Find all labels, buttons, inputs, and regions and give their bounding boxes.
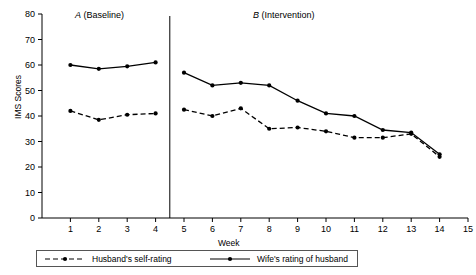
svg-text:15: 15: [463, 224, 473, 234]
data-point: [409, 130, 413, 134]
legend-item-husband-self-rating: Husband's self-rating: [44, 251, 172, 266]
data-point: [154, 111, 158, 115]
svg-text:2: 2: [96, 224, 101, 234]
legend-label-husband-self-rating: Husband's self-rating: [92, 254, 172, 264]
data-point: [296, 99, 300, 103]
data-point: [68, 63, 72, 67]
svg-text:4: 4: [153, 224, 158, 234]
data-point: [296, 125, 300, 129]
data-point: [381, 128, 385, 132]
data-point: [438, 152, 442, 156]
svg-text:8: 8: [267, 224, 272, 234]
data-point: [381, 136, 385, 140]
data-point: [324, 129, 328, 133]
data-point: [239, 106, 243, 110]
phase-label-b: B (Intervention): [253, 10, 315, 20]
legend-item-wife-rating-of-husband: Wife's rating of husband: [209, 251, 348, 266]
data-point: [352, 114, 356, 118]
legend-swatch-dashed: [44, 254, 86, 264]
svg-text:5: 5: [181, 224, 186, 234]
data-point: [239, 81, 243, 85]
svg-text:0: 0: [30, 213, 35, 223]
phase-label-a: A (Baseline): [75, 10, 124, 20]
svg-text:9: 9: [295, 224, 300, 234]
data-point: [267, 83, 271, 87]
series-line-1: [184, 73, 440, 155]
svg-text:10: 10: [321, 224, 331, 234]
data-point: [125, 64, 129, 68]
svg-text:1: 1: [68, 224, 73, 234]
y-axis-title: IMS Scores: [13, 75, 23, 119]
x-axis-title: Week: [218, 238, 240, 248]
svg-text:12: 12: [378, 224, 388, 234]
y-axis-title-wrapper: IMS Scores: [7, 67, 25, 127]
x-axis-title-wrapper: Week: [218, 232, 240, 250]
chart-figure: 01020304050607080123456789101112131415 I…: [0, 0, 476, 275]
data-point: [182, 71, 186, 75]
svg-text:11: 11: [350, 224, 359, 234]
data-point: [97, 118, 101, 122]
series-line-0: [70, 111, 155, 120]
legend-label-wife-rating-of-husband: Wife's rating of husband: [257, 254, 348, 264]
series-line-1: [70, 62, 155, 68]
data-point: [154, 60, 158, 64]
data-point: [182, 108, 186, 112]
svg-text:6: 6: [210, 224, 215, 234]
svg-text:3: 3: [125, 224, 130, 234]
data-point: [97, 67, 101, 71]
svg-text:70: 70: [25, 35, 35, 45]
data-point: [267, 127, 271, 131]
svg-text:60: 60: [25, 60, 35, 70]
data-point: [324, 111, 328, 115]
phase-a-text: (Baseline): [81, 10, 124, 20]
data-point: [210, 83, 214, 87]
svg-text:20: 20: [25, 162, 35, 172]
svg-text:50: 50: [25, 86, 35, 96]
data-point: [210, 114, 214, 118]
svg-text:80: 80: [25, 9, 35, 19]
svg-text:10: 10: [25, 188, 35, 198]
data-point: [68, 109, 72, 113]
chart-legend: Husband's self-rating Wife's rating of h…: [36, 250, 358, 267]
data-point: [352, 136, 356, 140]
svg-text:14: 14: [435, 224, 445, 234]
svg-text:13: 13: [406, 224, 416, 234]
svg-text:30: 30: [25, 137, 35, 147]
legend-swatch-solid: [209, 254, 251, 264]
data-point: [125, 113, 129, 117]
phase-b-text: (Intervention): [259, 10, 315, 20]
series-line-0: [184, 108, 440, 156]
svg-text:40: 40: [25, 111, 35, 121]
